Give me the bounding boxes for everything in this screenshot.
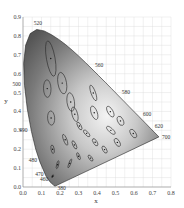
- y-axis-title: y: [4, 97, 8, 105]
- y-tick-label: 0.9: [14, 14, 22, 20]
- x-tick-label: 0.0: [19, 190, 27, 196]
- cie-chromaticity-chart: 0.00.10.20.30.40.50.60.70.80.00.10.20.30…: [0, 0, 184, 208]
- x-tick-label: 0.4: [93, 190, 101, 196]
- x-tick-label: 0.8: [167, 190, 175, 196]
- x-tick-label: 0.6: [130, 190, 138, 196]
- wavelength-label: 490: [19, 127, 28, 133]
- wavelength-label: 460: [40, 176, 49, 182]
- y-tick-label: 0.4: [14, 108, 22, 114]
- y-tick-label: 0.7: [14, 52, 22, 58]
- wavelength-label: 470: [35, 171, 44, 177]
- wavelength-label: 580: [122, 89, 131, 95]
- y-tick-label: 0.6: [14, 71, 22, 77]
- wavelength-label: 560: [95, 62, 104, 68]
- x-tick-label: 0.5: [112, 190, 120, 196]
- wavelength-label: 520: [34, 20, 43, 26]
- wavelength-label: 500: [12, 81, 21, 87]
- x-tick-label: 0.1: [38, 190, 46, 196]
- x-tick-label: 0.3: [75, 190, 83, 196]
- y-tick-label: 0.8: [14, 33, 22, 39]
- x-tick-label: 0.7: [149, 190, 157, 196]
- wavelength-label: 600: [143, 111, 152, 117]
- wavelength-label: 700: [162, 134, 171, 140]
- y-tick-label: 0.2: [14, 146, 22, 152]
- y-tick-label: 0.0: [14, 184, 22, 190]
- wavelength-label: 380: [57, 185, 65, 191]
- x-axis-title: x: [94, 197, 98, 205]
- wavelength-label: 480: [29, 157, 38, 163]
- wavelength-label: 620: [155, 123, 164, 129]
- spectral-locus: [24, 30, 159, 187]
- y-tick-label: 0.1: [14, 165, 22, 171]
- y-tick-label: 0.5: [14, 90, 22, 96]
